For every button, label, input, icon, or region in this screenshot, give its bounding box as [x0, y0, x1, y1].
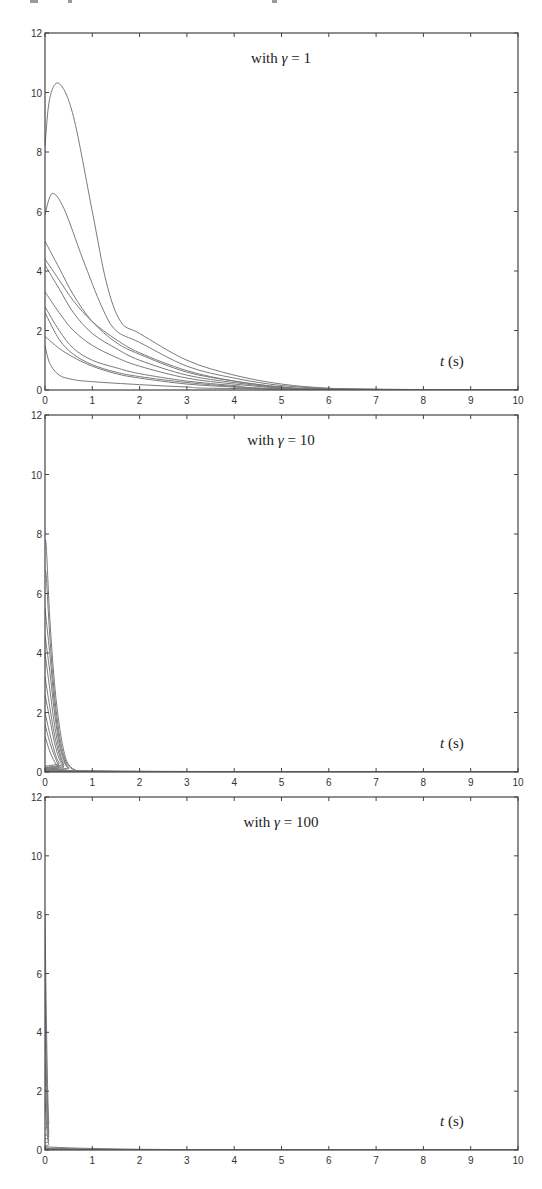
- trajectory-curve: [45, 265, 518, 390]
- panel-gamma-10: 012345678910024681012with γ = 10t (s): [31, 410, 524, 788]
- x-tick-label: 1: [90, 777, 96, 788]
- y-tick-label: 12: [31, 792, 43, 803]
- y-tick-label: 12: [31, 28, 43, 39]
- x-tick-label: 3: [184, 1155, 190, 1166]
- x-tick-label: 5: [279, 1155, 285, 1166]
- x-tick-label: 1: [90, 395, 96, 406]
- x-tick-label: 0: [42, 1155, 48, 1166]
- y-tick-label: 8: [36, 529, 42, 540]
- trajectory-curve: [38, 677, 518, 772]
- x-tick-label: 2: [137, 1155, 143, 1166]
- x-tick-label: 10: [512, 395, 524, 406]
- x-tick-label: 5: [279, 777, 285, 788]
- x-tick-label: 0: [42, 395, 48, 406]
- curves: [45, 83, 518, 390]
- x-tick-label: 4: [231, 777, 237, 788]
- x-tick-label: 3: [184, 395, 190, 406]
- top-cutoff-text: [30, 0, 277, 3]
- x-tick-label: 9: [468, 1155, 474, 1166]
- y-tick-label: 6: [36, 969, 42, 980]
- x-tick-label: 0: [42, 777, 48, 788]
- y-tick-label: 4: [36, 1027, 42, 1038]
- x-tick-label: 4: [231, 395, 237, 406]
- x-tick-label: 8: [421, 1155, 427, 1166]
- x-tick-label: 7: [373, 777, 379, 788]
- y-tick-label: 0: [36, 1145, 42, 1156]
- x-tick-label: 6: [326, 777, 332, 788]
- x-tick-label: 7: [373, 1155, 379, 1166]
- y-tick-label: 10: [31, 851, 43, 862]
- gamma-annotation: with γ = 100: [244, 814, 319, 830]
- trajectory-curve: [45, 83, 518, 390]
- y-tick-label: 0: [36, 385, 42, 396]
- x-tick-label: 10: [512, 1155, 524, 1166]
- y-tick-label: 8: [36, 147, 42, 158]
- y-tick-label: 6: [36, 589, 42, 600]
- trajectory-curve: [45, 259, 518, 390]
- x-tick-label: 8: [421, 395, 427, 406]
- figure: 012345678910024681012with γ = 1t (s) 012…: [0, 0, 542, 1189]
- x-tick-label: 10: [512, 777, 524, 788]
- x-axis-label: t (s): [440, 353, 464, 370]
- x-tick-label: 2: [137, 395, 143, 406]
- x-tick-label: 3: [184, 777, 190, 788]
- trajectory-curve: [38, 653, 518, 772]
- x-tick-label: 8: [421, 777, 427, 788]
- axes-frame: [45, 33, 518, 390]
- x-tick-label: 6: [326, 1155, 332, 1166]
- axes-frame: [45, 415, 518, 772]
- x-tick-label: 5: [279, 395, 285, 406]
- y-tick-label: 6: [36, 207, 42, 218]
- y-tick-label: 4: [36, 648, 42, 659]
- trajectory-curve: [16, 1062, 518, 1150]
- y-tick-label: 4: [36, 266, 42, 277]
- x-tick-label: 9: [468, 395, 474, 406]
- x-axis-label: t (s): [440, 1113, 464, 1130]
- trajectory-curve: [38, 695, 518, 772]
- x-axis-label: t (s): [440, 735, 464, 752]
- y-tick-label: 8: [36, 910, 42, 921]
- x-tick-label: 1: [90, 1155, 96, 1166]
- axes-frame: [45, 797, 518, 1150]
- panel-gamma-1: 012345678910024681012with γ = 1t (s): [31, 28, 524, 406]
- trajectory-curve: [16, 1018, 518, 1150]
- gamma-annotation: with γ = 10: [247, 432, 314, 448]
- x-tick-label: 4: [231, 1155, 237, 1166]
- y-tick-label: 2: [36, 708, 42, 719]
- trajectory-curve: [43, 635, 518, 772]
- panel-gamma-100: 012345678910024681012with γ = 100t (s): [16, 792, 524, 1166]
- y-tick-label: 10: [31, 470, 43, 481]
- y-tick-label: 12: [31, 410, 43, 421]
- x-tick-label: 9: [468, 777, 474, 788]
- y-tick-label: 2: [36, 326, 42, 337]
- y-tick-label: 0: [36, 767, 42, 778]
- y-tick-label: 10: [31, 88, 43, 99]
- y-tick-label: 2: [36, 1086, 42, 1097]
- x-tick-label: 6: [326, 395, 332, 406]
- gamma-annotation: with γ = 1: [251, 50, 311, 66]
- trajectory-curve: [45, 313, 518, 390]
- x-tick-label: 7: [373, 395, 379, 406]
- trajectory-curve: [45, 292, 518, 390]
- x-tick-label: 2: [137, 777, 143, 788]
